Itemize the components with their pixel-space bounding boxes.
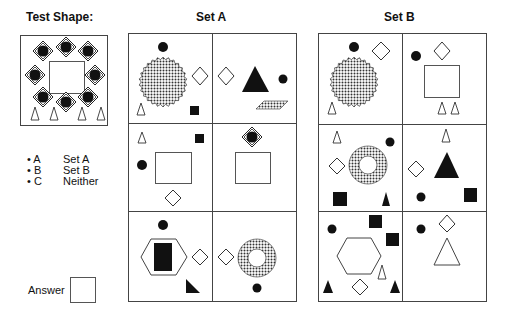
set-b-cell-1	[328, 42, 390, 114]
set-a-cell-4	[236, 127, 271, 184]
set-b-cell-6	[417, 215, 461, 265]
shapes-canvas	[0, 0, 508, 321]
set-b-cell-5	[323, 215, 400, 295]
set-b-cell-2	[411, 42, 460, 114]
set-a-cell-2	[218, 66, 288, 109]
set-a-cell-1	[137, 42, 208, 115]
test-shape-panel	[21, 36, 108, 126]
set-b-cell-3	[329, 131, 395, 206]
set-b-cell-4	[408, 129, 477, 202]
set-a-cell-5	[141, 220, 208, 293]
set-a-cell-6	[218, 239, 276, 293]
set-a-cell-3	[137, 132, 204, 206]
